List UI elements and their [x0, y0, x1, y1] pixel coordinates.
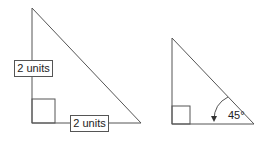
angle-label: 45° [228, 109, 245, 121]
horizontal-leg-label: 2 units [70, 115, 109, 132]
arrow-head-icon [211, 116, 217, 122]
right-angle-marker [172, 106, 190, 124]
vertical-leg-label: 2 units [14, 60, 53, 77]
right-angle-marker [32, 99, 55, 123]
